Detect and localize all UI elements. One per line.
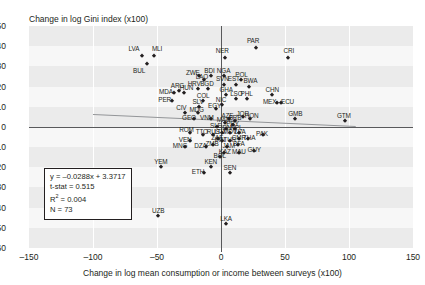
x-axis-tick-label: 50	[280, 252, 289, 262]
regression-stats-box: y = –0.0288x + 3.3717 t-stat = 0.515 R2 …	[44, 168, 132, 220]
data-point-label: SLV	[192, 97, 203, 104]
regression-equation: y = –0.0288x + 3.3717	[50, 172, 126, 182]
data-point-label: PHL	[241, 89, 253, 96]
data-point-label: GTM	[337, 111, 351, 118]
data-point-label: GUY	[248, 146, 261, 153]
data-point-label: UZB	[152, 206, 164, 213]
data-point-label: SVN	[216, 75, 229, 82]
data-point-label: ZMB	[206, 140, 219, 147]
y-axis-tick-label: 30	[0, 61, 6, 71]
data-point-label: BGD	[200, 79, 213, 86]
regression-n: N = 73	[50, 205, 126, 215]
data-point-label: PER	[158, 95, 171, 102]
data-point-label: MAU	[232, 148, 246, 155]
data-point-label: PAR	[247, 37, 259, 44]
data-point-label: VNM	[200, 113, 214, 120]
data-point-label: BUL	[133, 67, 145, 74]
data-point-label: YEM	[154, 158, 167, 165]
x-axis-tick-label: –100	[84, 252, 103, 262]
data-point-label: MDA	[159, 87, 173, 94]
y-axis-tick-label: –30	[0, 182, 6, 192]
data-point-label: GMB	[288, 109, 302, 116]
data-point-label: HON	[245, 111, 259, 118]
y-axis-tick-label: 20	[0, 82, 6, 92]
data-point-label: CIV	[176, 103, 186, 110]
data-point-label: EGY	[208, 101, 221, 108]
data-point-label: KEN	[204, 158, 217, 165]
data-point-label: MLI	[152, 45, 162, 52]
data-point-label: ECU	[281, 97, 294, 104]
regression-tstat: t-stat = 0.515	[50, 182, 126, 192]
data-point-label: CHN	[265, 85, 278, 92]
data-point-label: IDN	[221, 123, 232, 130]
data-point-label: CRI	[284, 47, 295, 54]
x-axis-tick-label: 150	[406, 252, 420, 262]
regression-r2: R2 = 0.004	[50, 193, 126, 205]
data-point-label: SEN	[224, 164, 237, 171]
data-point-label: PAK	[256, 129, 268, 136]
x-axis-label: Change in log mean consumption or income…	[0, 268, 425, 278]
y-axis-tick-label: –50	[0, 223, 6, 233]
data-point-label: HUN	[180, 83, 193, 90]
grid-line-vertical	[285, 26, 286, 248]
y-axis-tick-label: –20	[0, 162, 6, 172]
data-point-label: NPL	[230, 123, 242, 130]
data-point-label: LKA	[220, 214, 232, 221]
data-point-label: NGA	[217, 67, 230, 74]
x-axis-tick-label: –150	[20, 252, 39, 262]
y-axis-tick-label: 0	[1, 122, 6, 132]
gini-scatter-chart: Change in log Gini index (x100) LVAMLIBU…	[0, 0, 425, 285]
data-point-label: BFA	[233, 140, 245, 147]
data-point-label: MDG	[189, 105, 203, 112]
y-axis-tick-label: –10	[0, 142, 6, 152]
x-axis-tick-label: 0	[219, 252, 224, 262]
data-point-label: GEO	[182, 113, 196, 120]
data-point-label: ETH	[192, 168, 204, 175]
data-point-label: MNG	[173, 142, 187, 149]
x-axis-tick-label: –50	[150, 252, 164, 262]
y-axis-tick-label: –40	[0, 203, 6, 213]
y-axis-tick-label: 50	[0, 21, 6, 31]
grid-line-vertical	[349, 26, 350, 248]
y-axis-tick-label: 40	[0, 41, 6, 51]
data-point-label: EST	[228, 75, 240, 82]
y-axis-tick-label: –60	[0, 243, 6, 253]
y-axis-tick-label: 10	[0, 102, 6, 112]
data-point-label: BWA	[244, 77, 258, 84]
data-point-label: MEX	[263, 97, 276, 104]
chart-title: Change in log Gini index (x100)	[29, 14, 148, 24]
data-point-label: ROM	[179, 125, 193, 132]
x-axis-tick-mark	[221, 248, 222, 252]
x-axis-tick-label: 100	[342, 252, 356, 262]
data-point-label: LVA	[129, 45, 140, 52]
data-point-label: NER	[216, 47, 229, 54]
